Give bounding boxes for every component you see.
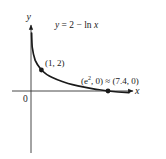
point-label-1-2: (1, 2) xyxy=(45,58,65,68)
origin-label: 0 xyxy=(23,94,28,104)
point-1-2 xyxy=(39,68,44,73)
point-label-e2-0: (e2, 0) ≈ (7.4, 0) xyxy=(81,75,139,86)
equation-title: y = 2 − ln x xyxy=(54,20,99,30)
graph: y x 0 y = 2 − ln x (1, 2) (e2, 0) ≈ (7.4… xyxy=(0,0,166,159)
point-e2-0 xyxy=(106,89,111,94)
y-axis-label: y xyxy=(26,11,32,22)
x-axis-label: x xyxy=(134,85,140,96)
